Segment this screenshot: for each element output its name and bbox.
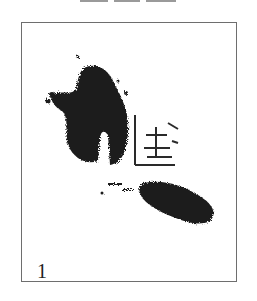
cropped-top-text [80,0,190,3]
figure-panel: 1 [21,22,237,282]
text-fragment [114,0,140,2]
panel-number-label: 1 [37,261,47,281]
text-fragment [146,0,176,2]
text-fragment [80,0,108,2]
ink-character-image [22,23,238,283]
